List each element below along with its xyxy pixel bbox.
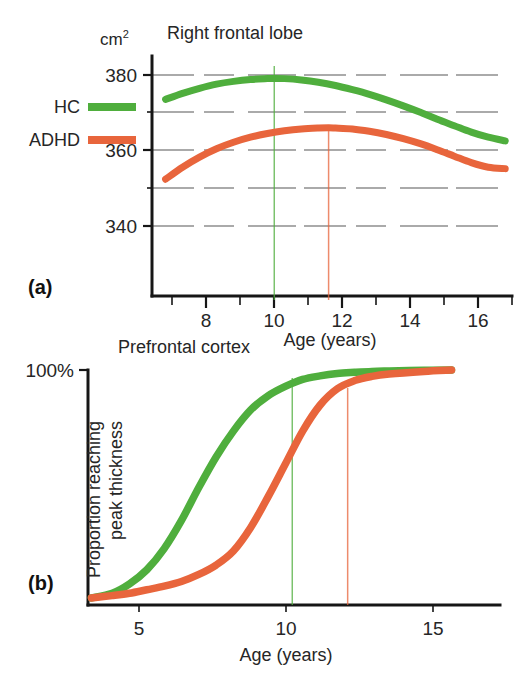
panel-a-label: (a) bbox=[28, 276, 52, 298]
panel-a-y-unit: cm2 bbox=[100, 28, 129, 49]
panel-a-hc-curve bbox=[166, 78, 506, 141]
panel-b-title: Prefrontal cortex bbox=[118, 337, 250, 357]
legend-label-hc: HC bbox=[54, 97, 80, 117]
panel-b-label: (b) bbox=[28, 572, 54, 594]
panel-b-y-axis-title-line2: peak thickness bbox=[106, 421, 126, 540]
panel-b-xtick-15: 15 bbox=[422, 618, 443, 639]
panel-a-xtick-8: 8 bbox=[201, 310, 212, 331]
legend: HC ADHD bbox=[29, 97, 136, 150]
panel-a-xtick-14: 14 bbox=[399, 310, 421, 331]
legend-label-adhd: ADHD bbox=[29, 130, 80, 150]
panel-a-ytick-340: 340 bbox=[105, 216, 137, 237]
panel-a-adhd-curve bbox=[166, 128, 506, 179]
brain-development-figure: cm2 Right frontal lobe 380 360 340 bbox=[0, 0, 520, 674]
panel-b-xtick-10: 10 bbox=[275, 618, 296, 639]
panel-a-ytick-380: 380 bbox=[105, 65, 137, 86]
panel-a-x-ticks bbox=[172, 296, 512, 308]
panel-a-xtick-12: 12 bbox=[331, 310, 352, 331]
panel-b-xtick-5: 5 bbox=[134, 618, 145, 639]
panel-b-x-axis-title: Age (years) bbox=[239, 645, 332, 665]
panel-b: Prefrontal cortex 100% Proportion reachi… bbox=[25, 337, 500, 665]
panel-b-ytick-label-100: 100% bbox=[25, 360, 74, 381]
panel-b-y-axis-title-line1: Proportion reaching bbox=[84, 421, 104, 578]
panel-b-adhd-curve bbox=[91, 370, 451, 598]
panel-a-x-axis-title: Age (years) bbox=[283, 330, 376, 350]
panel-a-title: Right frontal lobe bbox=[167, 23, 303, 43]
panel-a-xtick-10: 10 bbox=[263, 310, 284, 331]
panel-a-xtick-16: 16 bbox=[467, 310, 488, 331]
panel-a: cm2 Right frontal lobe 380 360 340 bbox=[28, 23, 512, 350]
